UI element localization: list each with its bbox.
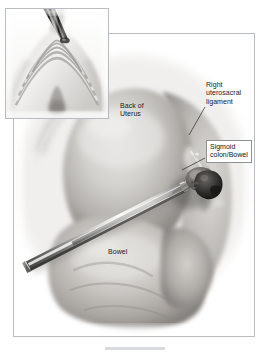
label-bowel: Bowel bbox=[108, 248, 127, 256]
inset-panel-frame bbox=[5, 8, 109, 119]
caption-rule bbox=[105, 347, 165, 350]
label-back-of-uterus: Back of Uterus bbox=[120, 102, 144, 119]
inset-panel-canvas bbox=[6, 9, 108, 118]
tissue-cross-section-artwork bbox=[6, 9, 108, 118]
callout-sigmoid-colon-bowel: Sigmoid colon/Bowel bbox=[206, 140, 252, 163]
label-right-uterosacral-ligament: Right uterosacral ligament bbox=[206, 81, 241, 106]
figure-root: Back of Uterus Right uterosacral ligamen… bbox=[0, 0, 264, 358]
